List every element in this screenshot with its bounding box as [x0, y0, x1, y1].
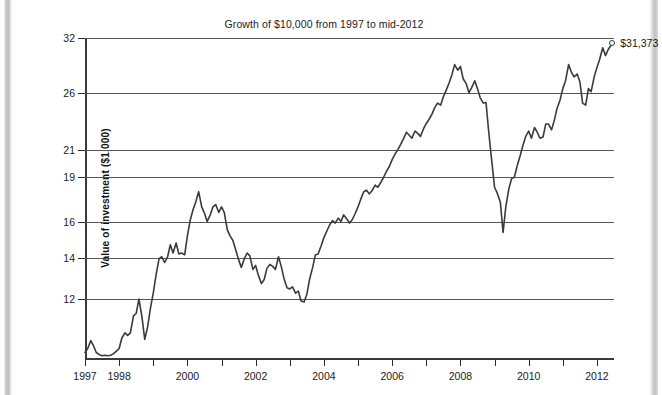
x-axis-label-2002: 2002 — [244, 370, 267, 382]
x-tick-1998 — [119, 360, 120, 366]
x-tick-2009 — [495, 360, 496, 366]
x-axis-label-2012: 2012 — [585, 370, 608, 382]
x-axis-label-2000: 2000 — [176, 370, 199, 382]
figure-page: Growth of $10,000 from 1997 to mid-2012 … — [0, 0, 662, 395]
x-tick-2008 — [460, 360, 461, 366]
x-axis-label-2008: 2008 — [449, 370, 472, 382]
y-tick-26 — [78, 93, 85, 94]
y-axis-label-32: 32 — [63, 33, 75, 44]
plot-area: Value of investment ($1,000) 32262119161… — [85, 38, 614, 358]
y-axis-label-26: 26 — [63, 88, 75, 99]
x-tick-1999 — [153, 360, 154, 366]
y-axis-label-14: 14 — [63, 252, 75, 263]
x-axis-label-2004: 2004 — [312, 370, 335, 382]
figure-canvas: Growth of $10,000 from 1997 to mid-2012 … — [14, 0, 648, 395]
y-tick-14 — [78, 258, 85, 259]
data-series-line — [85, 38, 614, 359]
x-tick-2005 — [358, 360, 359, 366]
y-tick-19 — [78, 177, 85, 178]
x-axis-label-1997: 1997 — [73, 370, 96, 382]
y-axis-label-12: 12 — [63, 293, 75, 304]
x-tick-2001 — [222, 360, 223, 366]
x-tick-2003 — [290, 360, 291, 366]
x-tick-2000 — [187, 360, 188, 366]
x-tick-2012 — [597, 360, 598, 366]
x-tick-2011 — [563, 360, 564, 366]
y-tick-32 — [78, 38, 85, 39]
x-tick-2006 — [392, 360, 393, 366]
x-axis-label-1998: 1998 — [107, 370, 130, 382]
end-value-marker-icon — [609, 40, 615, 46]
x-tick-2007 — [426, 360, 427, 366]
y-axis-label-16: 16 — [63, 217, 75, 228]
page-left-binding-stripe — [4, 0, 12, 395]
y-tick-21 — [78, 150, 85, 151]
y-axis-label-19: 19 — [63, 171, 75, 182]
page-right-binding-stripe — [650, 0, 658, 395]
x-tick-1997 — [85, 360, 86, 366]
x-axis-label-2006: 2006 — [381, 370, 404, 382]
y-tick-16 — [78, 222, 85, 223]
x-tick-2002 — [256, 360, 257, 366]
x-tick-2010 — [529, 360, 530, 366]
end-value-annotation: $31,373 — [620, 37, 658, 49]
x-tick-2004 — [324, 360, 325, 366]
y-tick-12 — [78, 299, 85, 300]
y-axis-label-21: 21 — [63, 145, 75, 156]
chart-title: Growth of $10,000 from 1997 to mid-2012 — [14, 18, 634, 30]
x-axis-label-2010: 2010 — [517, 370, 540, 382]
